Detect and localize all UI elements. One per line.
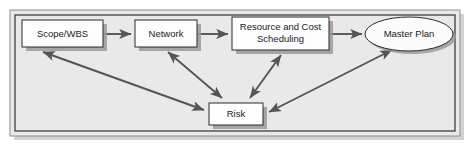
node-master-plan-label: Master Plan: [384, 28, 435, 39]
node-scope-wbs[interactable]: Scope/WBS: [22, 20, 107, 51]
node-risk-label: Risk: [227, 108, 246, 119]
diagram-canvas: Scope/WBS Network Resource and Cost Sche…: [0, 0, 470, 146]
node-network[interactable]: Network: [135, 20, 201, 51]
node-risk[interactable]: Risk: [209, 103, 267, 129]
node-resource-cost-scheduling-label-line1: Resource and Cost: [240, 21, 322, 32]
node-scope-wbs-label: Scope/WBS: [37, 28, 88, 39]
node-resource-cost-scheduling-label-line2: Scheduling: [257, 33, 304, 44]
process-flow-diagram: Scope/WBS Network Resource and Cost Sche…: [0, 0, 470, 146]
node-network-label: Network: [149, 28, 184, 39]
node-resource-cost-scheduling[interactable]: Resource and Cost Scheduling: [232, 17, 333, 54]
